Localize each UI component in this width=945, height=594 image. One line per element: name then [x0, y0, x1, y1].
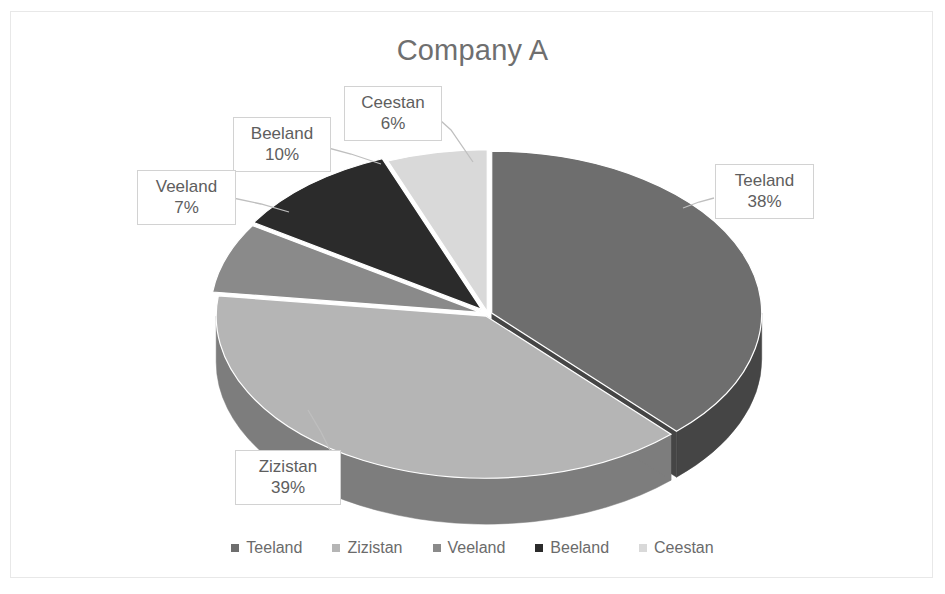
legend-swatch-icon — [535, 544, 543, 552]
legend-item-label: Beeland — [550, 539, 609, 557]
data-label-zizistan-value: 39% — [244, 477, 332, 498]
data-label-ceestan: Ceestan 6% — [344, 86, 442, 141]
legend-item-label: Veeland — [448, 539, 506, 557]
data-label-beeland: Beeland 10% — [233, 117, 331, 172]
legend-item[interactable]: Ceestan — [639, 539, 714, 557]
data-label-veeland-value: 7% — [146, 197, 227, 218]
legend-item[interactable]: Veeland — [433, 539, 506, 557]
data-label-beeland-name: Beeland — [242, 123, 322, 144]
legend-swatch-icon — [332, 544, 340, 552]
data-label-teeland: Teeland 38% — [715, 164, 814, 219]
data-label-ceestan-value: 6% — [353, 113, 433, 134]
data-label-zizistan-name: Zizistan — [244, 456, 332, 477]
data-label-ceestan-name: Ceestan — [353, 92, 433, 113]
data-label-teeland-name: Teeland — [724, 170, 805, 191]
legend-item-label: Ceestan — [654, 539, 714, 557]
legend-item-label: Teeland — [246, 539, 302, 557]
legend-swatch-icon — [433, 544, 441, 552]
data-label-teeland-value: 38% — [724, 191, 805, 212]
pie-chart-graphic[interactable] — [11, 12, 934, 579]
legend-item[interactable]: Beeland — [535, 539, 609, 557]
data-label-zizistan: Zizistan 39% — [235, 450, 341, 505]
data-label-beeland-value: 10% — [242, 144, 322, 165]
data-label-veeland-name: Veeland — [146, 176, 227, 197]
legend-item-label: Zizistan — [347, 539, 402, 557]
data-label-veeland: Veeland 7% — [137, 170, 236, 225]
legend-swatch-icon — [639, 544, 647, 552]
chart-legend: TeelandZizistanVeelandBeelandCeestan — [11, 539, 934, 557]
chart-frame: Company A Ceestan 6% Beeland 10% Veeland… — [10, 11, 933, 578]
legend-swatch-icon — [231, 544, 239, 552]
legend-item[interactable]: Teeland — [231, 539, 302, 557]
legend-item[interactable]: Zizistan — [332, 539, 402, 557]
